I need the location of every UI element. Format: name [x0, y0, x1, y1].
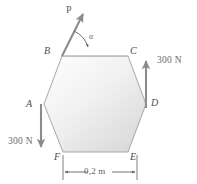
figure-container: A B C D E F P 300 N 300 N α 0,2 m: [0, 0, 197, 184]
force-p-label: P: [66, 5, 72, 15]
hexagon-plate: [44, 56, 146, 152]
angle-alpha-label: α: [89, 33, 93, 41]
force-left-300n-label: 300 N: [8, 137, 33, 147]
angle-alpha-arc: [74, 31, 88, 47]
vertex-label-e: E: [130, 152, 136, 162]
figure-drawing: [0, 0, 197, 184]
dimension-width-label: 0,2 m: [84, 167, 106, 176]
vertex-label-d: D: [151, 98, 158, 108]
vertex-label-f: F: [54, 152, 60, 162]
vertex-label-a: A: [26, 99, 32, 109]
force-right-300n-label: 300 N: [157, 56, 182, 66]
vertex-label-b: B: [44, 46, 50, 56]
vertex-label-c: C: [130, 46, 137, 56]
